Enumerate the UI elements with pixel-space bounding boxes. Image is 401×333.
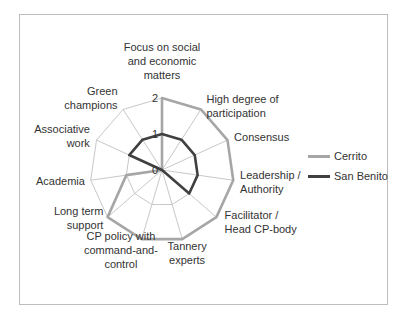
series-line-cerrito (108, 98, 234, 239)
legend-swatch-san-benito (308, 175, 330, 178)
legend-item-cerrito: Cerrito (308, 146, 388, 166)
legend-item-san-benito: San Benito (308, 166, 388, 186)
axis-label: Tanneryexperts (168, 240, 208, 266)
axis-label: Greenchampions (64, 85, 118, 111)
legend-label-san-benito: San Benito (334, 170, 388, 182)
axis-label: High degree ofparticipation (206, 93, 279, 119)
axis-label: Focus on socialand economicmatters (124, 41, 200, 81)
axis-label: Associativework (34, 123, 90, 149)
legend-label-cerrito: Cerrito (334, 150, 367, 162)
radial-tick-label: 2 (152, 92, 158, 104)
radial-tick-label: 1 (152, 128, 158, 140)
radial-tick-label: 0 (152, 164, 158, 176)
legend-swatch-cerrito (308, 155, 330, 158)
axis-label: Facilitator /Head CP-body (225, 209, 298, 235)
series-line-san-benito (129, 134, 197, 194)
axis-label: Leadership /Authority (240, 169, 301, 195)
legend: Cerrito San Benito (308, 146, 388, 186)
axis-label: Consensus (234, 131, 290, 143)
axis-label: Academia (36, 175, 86, 187)
axis-label: CP policy withcommand-and-control (84, 230, 158, 270)
axis-label: Long termsupport (54, 205, 104, 231)
